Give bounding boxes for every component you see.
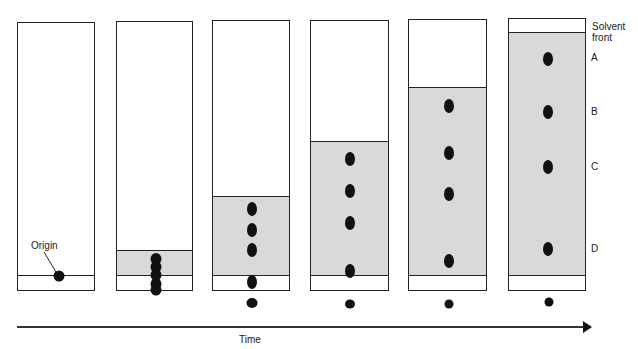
spot-label-a: A — [591, 52, 598, 63]
chromatography-strip-4 — [310, 20, 389, 291]
sample-spot — [444, 187, 454, 201]
sample-spot — [247, 275, 257, 289]
spot-label-b: B — [591, 106, 598, 117]
sample-spot — [345, 184, 355, 198]
spot-label-c: C — [591, 161, 598, 172]
sample-spot — [247, 243, 257, 257]
solvent-region — [409, 87, 486, 275]
sample-spot — [545, 298, 554, 307]
sample-spot — [445, 300, 454, 309]
sample-spot — [345, 300, 355, 309]
spot-c — [543, 160, 553, 174]
sample-spot — [444, 254, 454, 268]
sample-spot — [247, 223, 257, 237]
time-arrowhead-icon — [583, 321, 592, 333]
time-axis-label: Time — [239, 334, 261, 345]
spot-b — [543, 105, 553, 119]
chromatography-strip-5 — [408, 19, 487, 291]
sample-spot — [247, 298, 258, 308]
origin-label: Origin — [31, 240, 58, 251]
sample-spot — [151, 285, 162, 296]
sample-spot — [444, 99, 454, 113]
sample-spot — [247, 202, 257, 216]
time-axis-line — [17, 326, 585, 328]
chromatography-strip-2 — [116, 21, 193, 291]
origin-line — [509, 275, 585, 290]
spot-a — [543, 52, 553, 66]
origin-line — [409, 275, 486, 290]
sample-spot — [345, 264, 355, 278]
chromatography-strip-3 — [212, 20, 290, 291]
spot-label-d: D — [591, 243, 598, 254]
chromatography-strip-6 — [508, 18, 586, 291]
sample-spot — [345, 216, 355, 230]
spot-d — [543, 242, 553, 256]
solvent-region — [509, 32, 585, 275]
sample-spot — [444, 146, 454, 160]
sample-spot — [54, 271, 65, 282]
solvent-front-label: Solvent front — [592, 21, 625, 43]
sample-spot — [345, 152, 355, 166]
